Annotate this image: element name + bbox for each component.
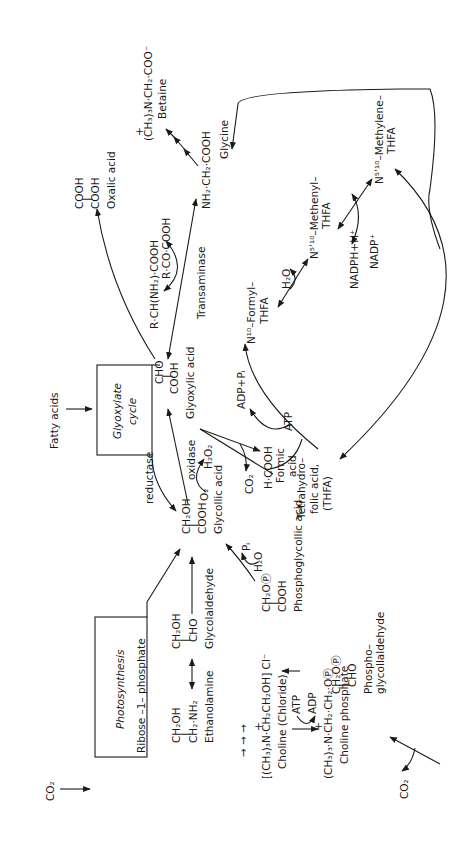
formic-acid: H·COOH Formic acid [262, 446, 298, 489]
svg-text:H·COOH: H·COOH [262, 446, 274, 489]
thfa-to-formyl-arrow [245, 344, 318, 449]
svg-text:THFA: THFA [258, 297, 270, 325]
transaminase-label: Transaminase [195, 247, 207, 320]
svg-text:Phosphoglycollic acid: Phosphoglycollic acid [292, 500, 304, 612]
formyl-thfa: N¹⁰–Formyl– THFA [245, 282, 270, 344]
h2o-phospho-label: H₂O [252, 552, 264, 572]
svg-text:N¹⁰–Formyl–: N¹⁰–Formyl– [245, 282, 257, 344]
glyoxylic-to-oxalic-arrow [97, 209, 155, 359]
svg-text:(THFA): (THFA) [321, 476, 333, 511]
diagram-canvas: Photosynthesis CO₂ Ribose –1– phosphate … [0, 0, 457, 849]
atp-thfa-label: ATP [282, 412, 294, 431]
reductase-arrow [152, 456, 176, 511]
svg-text:N⁵ʹ¹⁰–Methylene–: N⁵ʹ¹⁰–Methylene– [373, 95, 385, 184]
svg-text:CH₂OⓅ: CH₂OⓅ [260, 573, 272, 612]
atp-choline-label: ATP [290, 695, 302, 714]
svg-text:CH₂OH: CH₂OH [170, 707, 182, 743]
co2-input-label: CO₂ [44, 781, 56, 801]
oxidase-label: oxidase [185, 440, 197, 480]
glyoxylate-cycle-label-2: cycle [126, 398, 138, 425]
svg-text:Phospho–: Phospho– [362, 644, 374, 694]
glyoxylate-cycle-label-1: Glyoxylate [111, 383, 123, 439]
co2-bottom-label: CO₂ [398, 779, 410, 799]
svg-text:Oxalic acid: Oxalic acid [105, 151, 117, 209]
svg-text:COOH: COOH [73, 177, 85, 209]
ribose-to-glycollic-arrow [147, 549, 180, 602]
betaine-label: Betaine [156, 79, 168, 119]
methenyl-methylene-arrow [338, 179, 372, 229]
svg-text:CHO: CHO [346, 664, 358, 688]
multi-step-arrows: → → → [237, 724, 249, 757]
glyoxylate-cycle-box: Glyoxylate cycle [97, 365, 152, 455]
serine-to-glycine-line [232, 89, 440, 249]
svg-text:CH₂OⓅ: CH₂OⓅ [330, 655, 342, 694]
svg-text:COOH: COOH [168, 362, 180, 394]
transaminase-arrow [168, 199, 196, 359]
fatty-acids-label: Fatty acids [48, 392, 60, 449]
o2-label: O₂ [198, 489, 210, 501]
co2-release-curve [240, 444, 246, 471]
svg-text:COOH: COOH [89, 177, 101, 209]
svg-text:CH₂OH: CH₂OH [170, 613, 182, 649]
svg-text:THFA: THFA [385, 127, 397, 155]
svg-text:Glyoxylic acid: Glyoxylic acid [184, 346, 196, 419]
phosphoglycolaldehyde: CH₂OⓅ | CHO Phospho– glycollaldehyde [330, 612, 386, 694]
choline-chloride-label: Choline (Chloride) [276, 674, 288, 769]
svg-text:COOH: COOH [276, 580, 288, 612]
co2-formic-label: CO₂ [243, 474, 255, 494]
phosphoglycollic-acid: CH₂OⓅ | COOH Phosphoglycollic acid [260, 500, 304, 612]
glycine-to-betaine-arrows [166, 129, 178, 141]
methenyl-thfa: N⁵ʹ¹⁰–Methenyl– THFA [308, 177, 332, 259]
co2-bottom-curve [402, 748, 415, 771]
photosynthesis-label: Photosynthesis [114, 649, 126, 729]
choline-chloride-formula: [(CH₃)₃N·CH₂CH₂OH] Cl⁻ [260, 654, 272, 779]
svg-text:CHO: CHO [153, 361, 165, 385]
h2o-thfa-label: H₂O [280, 269, 292, 289]
oxalic-acid: COOH | COOH Oxalic acid [73, 151, 117, 209]
adp-choline-label: ADP [306, 692, 318, 714]
svg-text:Glycollic acid: Glycollic acid [212, 465, 224, 534]
svg-text:CHO: CHO [187, 619, 199, 643]
glycine-formula: NH₂·CH₂·COOH [200, 131, 212, 209]
reductase-label: reductase [143, 452, 155, 504]
nadp-label: NADP⁺ [368, 234, 380, 269]
svg-text:CH₂·NH₂: CH₂·NH₂ [187, 700, 199, 743]
nadph-label: NADPH+H⁺ [348, 229, 360, 289]
pathway-diagram: Photosynthesis CO₂ Ribose –1– phosphate … [0, 0, 457, 849]
ribose-label: Ribose –1– phosphate [135, 638, 147, 753]
svg-text:Glycolaldehyde: Glycolaldehyde [203, 568, 215, 649]
methylene-thfa: N⁵ʹ¹⁰–Methylene– THFA [373, 95, 397, 184]
svg-text:folic acid,: folic acid, [308, 464, 320, 514]
pi-label: Pᵢ [240, 543, 252, 551]
keto-acid-label: R·CO·COOH [160, 218, 172, 279]
svg-text:CH₂OH: CH₂OH [180, 498, 192, 534]
svg-text:COOH: COOH [196, 502, 208, 534]
svg-text:N⁵ʹ¹⁰–Methenyl–: N⁵ʹ¹⁰–Methenyl– [308, 177, 320, 259]
amino-acid-label: R·CH(NH₂)·COOH [148, 240, 160, 329]
betaine-formula: (CH₃)₃N·CH₂·COO⁻ [142, 46, 154, 141]
svg-text:THFA: THFA [320, 202, 332, 230]
svg-text:glycollaldehyde: glycollaldehyde [374, 612, 386, 694]
adp-pi-label: ADP+Pᵢ [235, 370, 247, 409]
glycine-label: Glycine [218, 120, 230, 159]
h2o2-label: H₂O₂ [202, 444, 214, 469]
glyoxylic-acid: CHO | COOH Glyoxylic acid [153, 346, 196, 419]
svg-text:Ethanolamine: Ethanolamine [203, 670, 215, 743]
